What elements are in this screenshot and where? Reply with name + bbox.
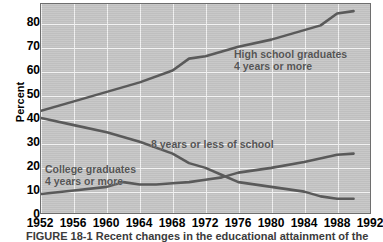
series-label-high-school-line2: 4 years or more [234,60,312,72]
series-label-college-graduates: College graduates4 years or more [45,164,136,187]
series-label-eight-years-line1: 8 years or less of school [151,138,274,150]
x-tick-label-1992: 1992 [357,216,383,230]
x-tick-label-1976: 1976 [225,216,252,230]
x-tick-label-1964: 1964 [126,216,153,230]
x-tick-label-1980: 1980 [258,216,285,230]
x-tick-label-1956: 1956 [60,216,87,230]
x-axis-tick-labels: 1952 1956 1960 1964 1968 1972 1976 1980 … [40,216,371,230]
series-label-high-school-line1: High school graduates [234,48,347,60]
series-label-college-line1: College graduates [45,163,136,175]
y-tick-label-30: 30 [4,136,40,148]
y-tick-label-20: 20 [4,160,40,172]
y-tick-label-40: 40 [4,112,40,124]
y-tick-label-60: 60 [4,64,40,76]
y-tick-label-70: 70 [4,40,40,52]
x-tick-label-1968: 1968 [159,216,186,230]
plot-area: High school graduates4 years or more 8 y… [40,3,371,214]
x-tick-label-1984: 1984 [291,216,318,230]
series-label-college-line2: 4 years or more [45,175,123,187]
y-tick-label-10: 10 [4,184,40,196]
y-tick-label-50: 50 [4,88,40,100]
x-tick-label-1988: 1988 [324,216,351,230]
series-label-high-school-graduates: High school graduates4 years or more [234,49,347,72]
x-tick-label-1960: 1960 [93,216,120,230]
figure-caption: FIGURE 18-1 Recent changes in the educat… [26,230,383,242]
x-tick-label-1972: 1972 [192,216,219,230]
series-label-eight-years-or-less: 8 years or less of school [151,139,274,151]
y-tick-label-80: 80 [4,16,40,28]
x-tick-label-1952: 1952 [27,216,54,230]
